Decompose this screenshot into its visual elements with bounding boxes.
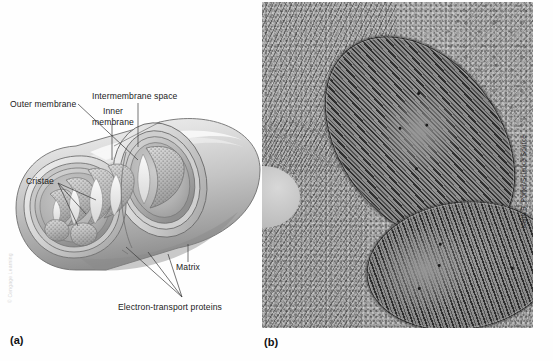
panel-b-micrograph	[262, 2, 533, 328]
panel-b-credit: Keith R. Porter/Science Source	[520, 108, 527, 228]
label-electron-transport-proteins: Electron-transport proteins	[118, 302, 222, 313]
label-inner-membrane-line2: membrane	[70, 117, 156, 128]
label-cristae: Cristae	[26, 176, 54, 187]
label-matrix: Matrix	[176, 262, 200, 273]
figure-mitochondrion: © Cengage Learning	[0, 0, 553, 361]
panel-a-illustration: © Cengage Learning	[0, 0, 262, 361]
label-outer-membrane: Outer membrane	[10, 99, 76, 110]
panel-b-label: (b)	[264, 336, 278, 348]
label-inner-membrane-line1: Inner	[70, 106, 156, 117]
panel-a-label: (a)	[10, 334, 23, 346]
label-intermembrane-space: Intermembrane space	[92, 91, 178, 102]
